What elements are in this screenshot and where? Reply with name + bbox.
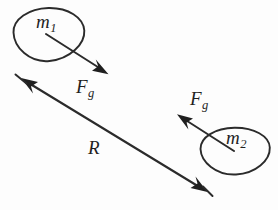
force-2-label: Fg [190, 89, 208, 111]
force-1-label-subscript: g [88, 86, 94, 100]
force-1-label-base: F [76, 76, 88, 97]
force-2-label-subscript: g [202, 98, 208, 112]
distance-label-base: R [88, 137, 100, 158]
mass-1-label-subscript: 1 [50, 21, 56, 35]
distance-label: R [88, 138, 100, 157]
gravitational-force-diagram: m1 m2 Fg Fg R [0, 0, 278, 210]
force-1-label: Fg [76, 77, 94, 99]
mass-1-label: m1 [36, 12, 57, 34]
mass-1-label-base: m [36, 11, 50, 32]
mass-2-label-subscript: 2 [240, 137, 246, 151]
mass-2-label-base: m [226, 127, 240, 148]
force-2-label-base: F [190, 88, 202, 109]
mass-2-label: m2 [226, 128, 247, 150]
